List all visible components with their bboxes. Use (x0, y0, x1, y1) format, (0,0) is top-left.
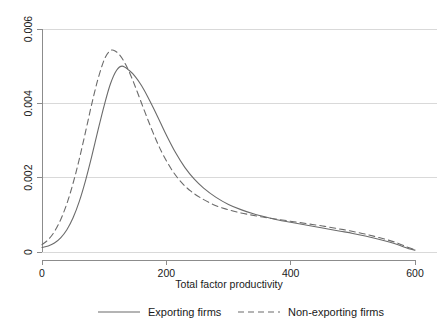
x-axis-title: Total factor productivity (175, 278, 283, 290)
axes-group (42, 29, 415, 260)
chart-canvas: 00.0020.0040.006 0200400600 Total factor… (0, 0, 438, 330)
gridlines-group (42, 29, 437, 252)
series-line-non-exporting-firms (42, 50, 415, 250)
density-chart-figure: 00.0020.0040.006 0200400600 Total factor… (0, 0, 438, 330)
series-lines-group (42, 50, 415, 250)
x-tick-label-2: 400 (282, 267, 300, 279)
y-tick-label-0: 0 (22, 249, 34, 255)
x-tick-label-3: 600 (406, 267, 424, 279)
y-axis-tick-labels: 00.0020.0040.006 (22, 16, 34, 255)
legend-label-1: Non-exporting firms (288, 306, 384, 318)
chart-legend: Exporting firmsNon-exporting firms (98, 306, 384, 318)
y-tick-label-3: 0.006 (22, 16, 34, 42)
legend-label-0: Exporting firms (148, 306, 222, 318)
series-line-exporting-firms (42, 66, 415, 250)
x-tick-label-0: 0 (39, 267, 45, 279)
y-tick-label-1: 0.002 (22, 164, 34, 190)
x-tick-label-1: 200 (158, 267, 176, 279)
y-tick-label-2: 0.004 (22, 90, 34, 116)
